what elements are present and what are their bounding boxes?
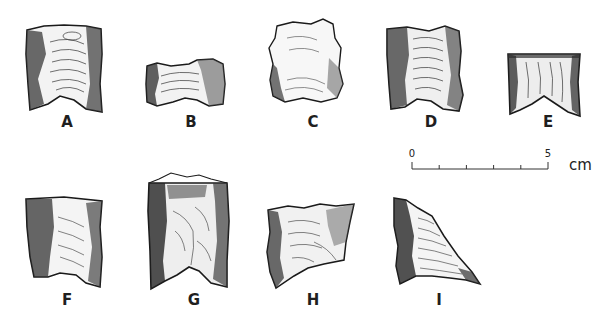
artifact-a-drawing (24, 24, 104, 114)
artifact-d-drawing (385, 25, 465, 115)
artifact-e-drawing (506, 52, 582, 118)
artifact-c-drawing (267, 18, 345, 104)
scale-unit-label: cm (569, 156, 592, 174)
artifact-g-label: G (188, 293, 200, 308)
scale-ruler-icon (405, 148, 555, 178)
artifact-d-label: D (425, 115, 437, 130)
artifact-b-label: B (185, 115, 196, 130)
artifact-e-label: E (543, 115, 553, 130)
scale-bar: 0 5 cm (405, 148, 595, 178)
artifact-g-drawing (147, 171, 231, 291)
artifact-a-label: A (61, 115, 73, 130)
artifact-c-label: C (307, 115, 318, 130)
lithic-illustration-figure: A B C (0, 0, 601, 330)
artifact-f-drawing (24, 197, 104, 289)
artifact-b-drawing (145, 58, 227, 110)
artifact-i-drawing (392, 196, 482, 288)
artifact-f-label: F (62, 293, 72, 308)
artifact-h-drawing (264, 202, 356, 290)
artifact-h-label: H (307, 293, 320, 308)
artifact-i-label: I (436, 293, 442, 308)
